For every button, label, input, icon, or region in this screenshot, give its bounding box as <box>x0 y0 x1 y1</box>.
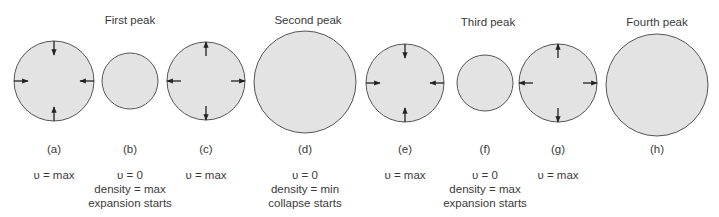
stage-label-a: (a) <box>47 143 61 155</box>
stage-description-g: υ = max <box>537 168 578 182</box>
description-line: expansion starts <box>88 196 172 210</box>
description-line: υ = 0 <box>88 168 172 182</box>
description-line: υ = max <box>33 168 74 182</box>
stage-label-h: (h) <box>650 143 664 155</box>
stage-description-b: υ = 0density = maxexpansion starts <box>88 168 172 210</box>
star-stage-c <box>167 42 245 120</box>
star-stage-f <box>457 55 513 111</box>
peak-label: Third peak <box>461 16 515 28</box>
star-circle <box>102 53 158 109</box>
star-circle <box>254 31 356 133</box>
description-line: υ = 0 <box>443 168 527 182</box>
star-stage-h <box>606 34 708 136</box>
description-line: υ = max <box>537 168 578 182</box>
description-line: density = min <box>268 182 342 196</box>
star-stage-b <box>102 53 158 109</box>
peak-label: Fourth peak <box>626 16 687 28</box>
star-stage-a <box>14 41 94 121</box>
description-line: expansion starts <box>443 196 527 210</box>
star-stage-g <box>519 44 597 122</box>
star-circle <box>606 34 708 136</box>
stage-label-f: (f) <box>480 143 491 155</box>
peak-label: First peak <box>105 14 156 26</box>
stage-label-c: (c) <box>199 143 212 155</box>
description-line: υ = max <box>384 168 425 182</box>
stage-description-a: υ = max <box>33 168 74 182</box>
description-line: density = max <box>443 182 527 196</box>
stage-description-f: υ = 0density = maxexpansion starts <box>443 168 527 210</box>
stage-label-g: (g) <box>551 143 565 155</box>
peak-label: Second peak <box>274 14 341 26</box>
star-stage-d <box>254 31 356 133</box>
stage-label-e: (e) <box>398 143 412 155</box>
stage-label-b: (b) <box>123 143 137 155</box>
stage-description-d: υ = 0density = mincollapse starts <box>268 168 342 210</box>
description-line: density = max <box>88 182 172 196</box>
stage-description-e: υ = max <box>384 168 425 182</box>
stage-description-c: υ = max <box>185 168 226 182</box>
description-line: collapse starts <box>268 196 342 210</box>
stage-label-d: (d) <box>298 143 312 155</box>
description-line: υ = 0 <box>268 168 342 182</box>
description-line: υ = max <box>185 168 226 182</box>
star-circle <box>457 55 513 111</box>
star-stage-e <box>366 44 444 122</box>
